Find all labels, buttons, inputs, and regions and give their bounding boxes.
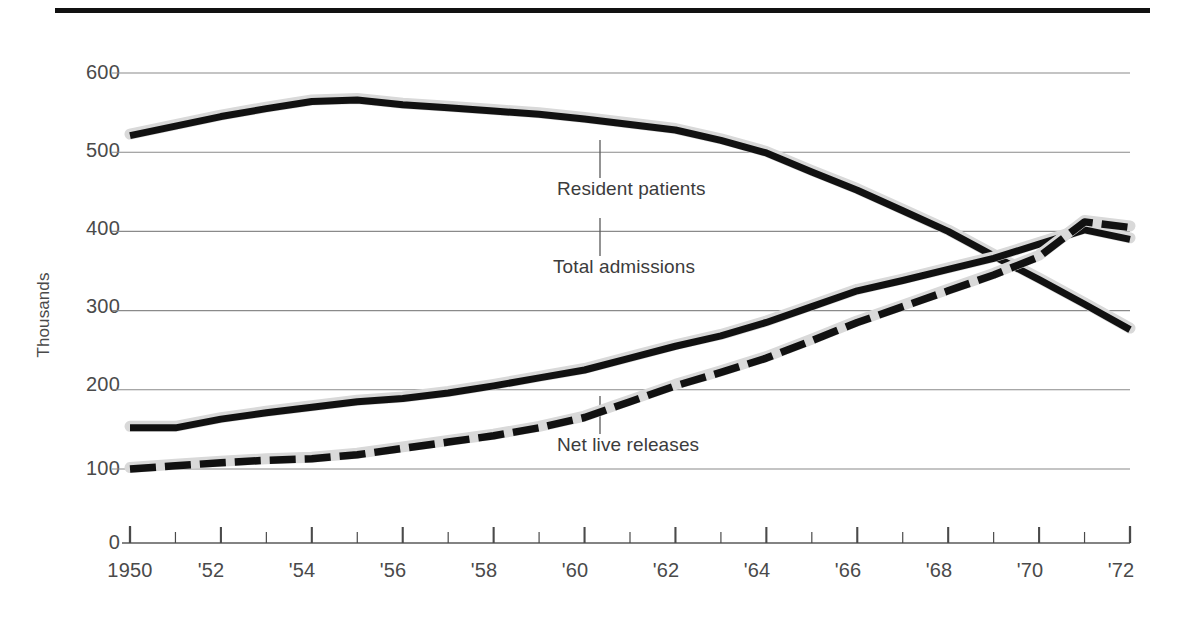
series-line-resident-patients bbox=[130, 100, 1130, 330]
x-axis-ticks bbox=[122, 526, 1130, 543]
plot-canvas bbox=[0, 0, 1194, 622]
series-halo bbox=[130, 98, 1130, 328]
chart-figure: Thousands 600 500 400 300 200 100 0 1950… bbox=[0, 0, 1194, 622]
data-series-layer bbox=[130, 98, 1130, 469]
